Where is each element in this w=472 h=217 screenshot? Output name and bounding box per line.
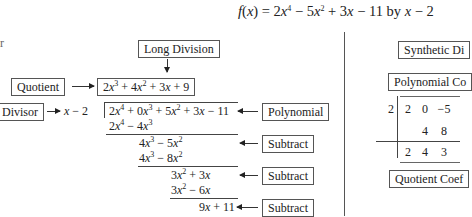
left-arrow-icon [237, 207, 258, 208]
dividend-expression: 2x4 + 0x3 + 5x2 + 3x − 11 [109, 104, 229, 118]
subtract-label-1: Subtract [262, 135, 314, 153]
left-arrow-icon [240, 175, 258, 176]
subtract-line-1 [106, 134, 238, 135]
subtract-line-3 [170, 198, 238, 199]
left-arrow-icon [238, 111, 258, 112]
coefficient-1: 2 [401, 102, 415, 116]
synthetic-result-line [376, 141, 460, 142]
coefficients-brace [400, 96, 460, 97]
subtract-label-3: Subtract [262, 199, 314, 217]
down-arrow-icon [167, 59, 168, 72]
subtract-line-2 [138, 166, 238, 167]
step-3-remainder: 9x + 11 [199, 200, 235, 214]
step-2-product: 4x3 − 8x2 [139, 151, 182, 165]
clipped-text-fragment: r [0, 36, 4, 51]
step-3-product: 3x2 − 6x [171, 183, 210, 197]
synthetic-root: 2 [384, 102, 398, 116]
step-1-product: 2x4 − 4x3 [109, 119, 152, 133]
long-division-label: Long Division [138, 40, 220, 58]
result-2: 4 [418, 145, 432, 159]
coefficient-3: −5 [437, 102, 451, 116]
divisor-label: Divisor [0, 103, 44, 121]
results-brace [400, 162, 460, 163]
division-bracket-left [104, 102, 105, 118]
product-2: 8 [437, 124, 451, 138]
panel-divider [344, 32, 345, 216]
polynomial-coefficients-label: Polynomial Co [388, 73, 472, 91]
polynomial-label: Polynomial [262, 103, 329, 121]
result-3: 3 [437, 145, 451, 159]
left-arrow-icon [240, 143, 258, 144]
step-2-remainder: 3x2 + 3x [171, 168, 210, 182]
product-1: 4 [418, 124, 432, 138]
divisor-expression: x − 2 [64, 104, 88, 118]
right-arrow-icon [47, 111, 60, 112]
coefficient-2: 0 [418, 102, 432, 116]
quotient-label: Quotient [11, 78, 65, 96]
step-1-remainder: 4x3 − 5x2 [139, 136, 182, 150]
subtract-label-2: Subtract [262, 167, 314, 185]
right-arrow-icon [72, 86, 94, 87]
quotient-coefficients-label: Quotient Coef [389, 170, 469, 188]
result-1: 2 [401, 145, 415, 159]
synthetic-bracket-vertical [397, 96, 398, 158]
synthetic-division-label: Synthetic Di [398, 41, 470, 59]
problem-title: f(x) = 2x4 − 5x2 + 3x − 11 by x − 2 [238, 3, 434, 20]
quotient-expression: 2x3 + 4x2 + 3x + 9 [97, 78, 195, 96]
